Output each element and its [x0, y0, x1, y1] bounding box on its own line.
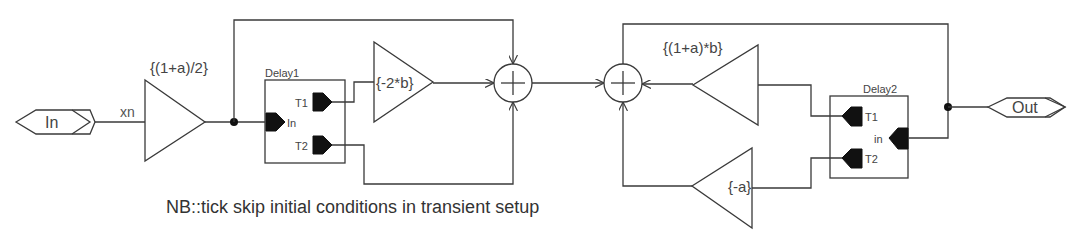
delay1-t2-label: T2 — [295, 140, 308, 152]
wire-delay2-t2-gain4 — [752, 158, 842, 188]
gain-triangle-icon — [693, 45, 758, 125]
gain-block-1[interactable]: {(1+a)/2} — [145, 59, 208, 161]
delay2-title: Delay2 — [863, 83, 897, 95]
net-label-xn: xn — [120, 104, 135, 120]
delay-block-2[interactable]: Delay2 T1 T2 in — [830, 83, 908, 178]
gain-label-1: {(1+a)/2} — [150, 59, 208, 76]
summer-2[interactable] — [604, 64, 642, 102]
output-port[interactable]: Out — [988, 98, 1065, 117]
input-port-label: In — [45, 114, 58, 131]
gain-label-4: {-a} — [728, 178, 751, 195]
gain-triangle-icon — [145, 80, 205, 161]
delay2-in-label: in — [874, 133, 883, 145]
gain-label-2: {-2*b} — [376, 74, 414, 91]
delay-block-1[interactable]: Delay1 In T1 T2 — [265, 67, 345, 163]
delay1-title: Delay1 — [265, 67, 299, 79]
wire-delay1-t2-sum1 — [332, 102, 513, 184]
summer-1[interactable] — [494, 64, 532, 102]
delay1-in-label: In — [287, 117, 296, 129]
gain-block-4[interactable]: {-a} — [692, 148, 752, 228]
delay2-t2-label: T2 — [865, 153, 878, 165]
wire-sum2-output — [623, 24, 948, 107]
delay2-t1-label: T1 — [865, 111, 878, 123]
gain-block-2[interactable]: {-2*b} — [374, 42, 433, 122]
output-port-label: Out — [1012, 99, 1038, 116]
wire-output-delay2-in — [908, 107, 948, 138]
wire-gain4-sum2 — [623, 102, 692, 186]
note-text: NB::tick skip initial conditions in tran… — [166, 197, 539, 217]
gain-block-3[interactable]: {(1+a)*b} — [663, 39, 758, 125]
input-port[interactable]: In — [16, 110, 95, 134]
block-diagram-canvas: In xn {(1+a)/2} Delay1 In T1 T2 {-2*b} — [0, 0, 1082, 245]
delay1-t1-label: T1 — [295, 97, 308, 109]
gain-label-3: {(1+a)*b} — [663, 39, 723, 56]
